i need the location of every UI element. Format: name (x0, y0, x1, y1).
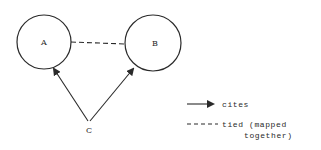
node-c-label: C (86, 126, 92, 135)
edge-c-b-cites (90, 69, 133, 121)
edge-a-b-tied (71, 42, 125, 44)
legend: cites tied (mapped together) (187, 100, 293, 140)
node-b-label: B (152, 39, 158, 48)
legend-tied-label-line2: together) (244, 131, 293, 140)
node-a-label: A (40, 38, 47, 47)
node-a: A (17, 15, 71, 69)
legend-tied-label-line1: tied (mapped (222, 120, 287, 129)
node-b: B (125, 15, 181, 71)
legend-cites-label: cites (222, 100, 249, 109)
edge-c-a-cites (54, 69, 88, 121)
citation-diagram: A B C cites tied (mapped together) (0, 0, 321, 150)
